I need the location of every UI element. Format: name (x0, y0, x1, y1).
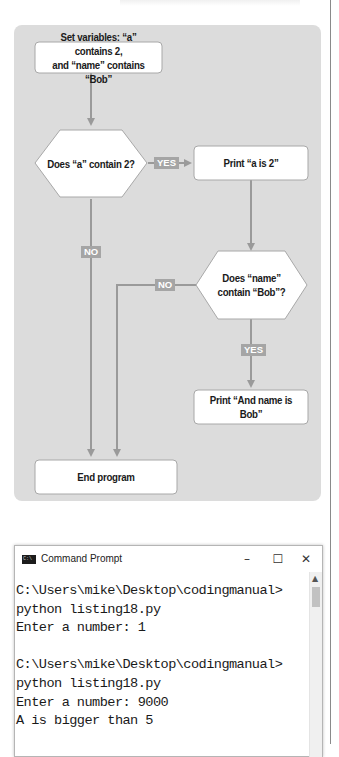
vertical-scrollbar[interactable]: ▲ (309, 572, 322, 757)
decision-name-text: Does “name” contain “Bob”? (203, 251, 301, 319)
window-title: Command Prompt (41, 553, 122, 564)
scroll-up-arrow-icon[interactable]: ▲ (312, 574, 318, 583)
scroll-thumb[interactable] (312, 587, 320, 607)
print-a-text: Print “a is 2” (201, 146, 301, 180)
no-tag-decision-name: NO (155, 279, 175, 291)
minimize-button[interactable]: – (237, 550, 257, 568)
console-line: python listing18.py (16, 601, 306, 620)
console-line: ​ (16, 638, 306, 657)
console-line: python listing18.py (16, 675, 306, 694)
close-button[interactable]: ✕ (296, 550, 316, 568)
no-tag-decision-a: NO (81, 246, 101, 258)
start-node-text: Set variables: “a” contains 2, and “name… (43, 42, 155, 73)
console-line: Enter a number: 1 (16, 619, 306, 638)
console-line: A is bigger than 5 (16, 712, 306, 731)
console-line: Enter a number: 9000 (16, 694, 306, 713)
yes-tag-decision-name: YES (241, 344, 266, 356)
decision-a-text: Does “a” contain 2? (42, 130, 141, 197)
console-output[interactable]: C:\Users\mike\Desktop\codingmanual>pytho… (16, 582, 306, 731)
cmd-icon: C:\ (22, 555, 36, 564)
decision-name-line-1: Does “name” (222, 271, 280, 285)
title-bar[interactable]: C:\ Command Prompt – ☐ ✕ (15, 546, 322, 572)
print-name-text: Print “And name is Bob” (201, 390, 301, 424)
command-prompt-window: C:\ Command Prompt – ☐ ✕ C:\Users\mike\D… (14, 545, 323, 757)
console-line: C:\Users\mike\Desktop\codingmanual> (16, 656, 306, 675)
yes-tag-decision-a: YES (154, 157, 179, 169)
end-text: End program (44, 460, 169, 494)
decision-name-line-2: contain “Bob”? (218, 285, 286, 299)
maximize-button[interactable]: ☐ (268, 550, 288, 568)
start-line-1: Set variables: “a” contains 2, (43, 30, 155, 58)
console-line: C:\Users\mike\Desktop\codingmanual> (16, 582, 306, 601)
start-line-2: and “name” contains “Bob” (43, 58, 155, 86)
